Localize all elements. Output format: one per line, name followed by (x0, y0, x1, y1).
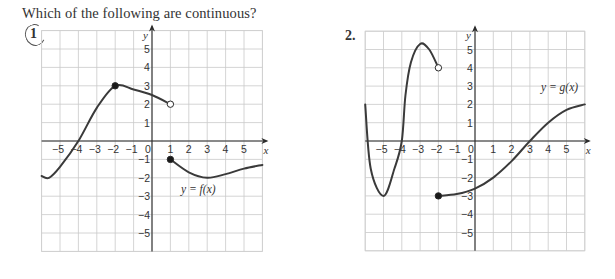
x-axis-label: x (262, 144, 268, 156)
x-tick-label: −5 (52, 143, 64, 155)
y-tick-label: 1 (144, 117, 150, 129)
y-tick-label: 5 (144, 43, 150, 55)
closed-endpoint (167, 156, 173, 162)
y-axis-label: y (465, 29, 471, 41)
y-tick-label: −4 (461, 208, 473, 220)
x-tick-label: −1 (126, 143, 138, 155)
y-axis-label: y (142, 29, 148, 41)
y-tick-label: −5 (461, 227, 473, 239)
y-tick-label: 3 (467, 80, 473, 92)
closed-endpoint (435, 193, 441, 199)
x-tick-label: 4 (223, 143, 229, 155)
x-tick-label: 2 (186, 143, 192, 155)
function-curve (170, 159, 262, 177)
x-tick-label: 5 (564, 143, 570, 155)
x-tick-label: 1 (490, 143, 496, 155)
x-tick-label: −5 (376, 143, 388, 155)
x-tick-label: 3 (527, 143, 533, 155)
x-tick-label: 5 (241, 143, 247, 155)
function-label: y = f(x) (180, 183, 216, 196)
y-tick-label: −1 (461, 153, 473, 165)
x-tick-label: −2 (430, 143, 442, 155)
graphs-canvas: xy−5−4−3−2−1012345−5−4−3−2−112345y = f(x… (0, 0, 615, 279)
x-tick-label: 2 (509, 143, 515, 155)
y-tick-label: −2 (461, 172, 473, 184)
y-tick-label: −2 (138, 172, 150, 184)
y-tick-label: 3 (144, 80, 150, 92)
x-tick-label: −1 (449, 143, 461, 155)
y-tick-label: 5 (467, 44, 473, 56)
y-tick-label: 2 (467, 98, 473, 110)
x-tick-label: −2 (107, 143, 119, 155)
x-axis-label: x (585, 144, 591, 156)
graph-f: xy−5−4−3−2−1012345−5−4−3−2−112345y = f(x… (42, 25, 269, 252)
open-endpoint (435, 65, 441, 71)
x-tick-label: 1 (167, 143, 173, 155)
y-tick-label: 2 (144, 98, 150, 110)
x-tick-label: −3 (89, 143, 101, 155)
closed-endpoint (112, 83, 118, 89)
x-tick-label: −3 (412, 143, 424, 155)
y-tick-label: 4 (144, 61, 150, 73)
y-tick-label: −1 (138, 153, 150, 165)
y-tick-label: −5 (138, 227, 150, 239)
function-curve (42, 85, 171, 178)
y-tick-label: 1 (467, 117, 473, 129)
y-tick-label: −3 (138, 190, 150, 202)
graph-g: xy−5−4−3−2−1012345−5−4−3−2−112345y = g(x… (365, 25, 591, 251)
function-label: y = g(x) (540, 81, 578, 94)
open-endpoint (167, 101, 173, 107)
x-tick-label: 3 (204, 143, 210, 155)
y-tick-label: −4 (138, 209, 150, 221)
y-tick-label: 4 (467, 62, 473, 74)
x-tick-label: 4 (545, 143, 551, 155)
